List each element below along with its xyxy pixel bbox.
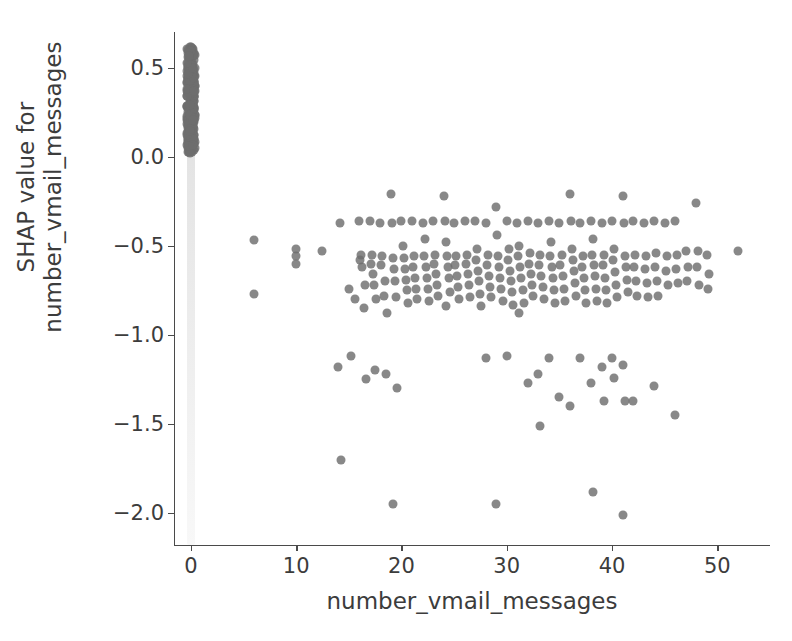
y-tick-mark — [168, 68, 174, 69]
scatter-point — [503, 256, 512, 265]
scatter-point — [391, 277, 400, 286]
scatter-point — [361, 375, 370, 384]
scatter-point — [652, 248, 661, 257]
scatter-point — [618, 191, 627, 200]
scatter-point — [462, 250, 471, 259]
scatter-point — [524, 259, 533, 268]
scatter-point — [557, 250, 566, 259]
scatter-point — [609, 256, 618, 265]
scatter-point — [513, 218, 522, 227]
scatter-point — [602, 298, 611, 307]
scatter-point — [581, 298, 590, 307]
scatter-point — [526, 270, 535, 279]
y-tick-label: −1.0 — [113, 323, 164, 347]
scatter-point — [346, 352, 355, 361]
scatter-point — [579, 273, 588, 282]
scatter-point — [661, 266, 670, 275]
y-tick-label: −1.5 — [113, 412, 164, 436]
scatter-point — [476, 289, 485, 298]
scatter-point — [618, 361, 627, 370]
scatter-point — [629, 216, 638, 225]
scatter-point — [465, 293, 474, 302]
scatter-point — [389, 500, 398, 509]
scatter-point — [608, 353, 617, 362]
scatter-point — [475, 277, 484, 286]
scatter-point — [558, 272, 567, 281]
scatter-point — [508, 288, 517, 297]
scatter-point — [671, 216, 680, 225]
x-tick-label: 0 — [184, 554, 197, 578]
scatter-point — [336, 218, 345, 227]
scatter-point — [355, 216, 364, 225]
scatter-point — [376, 218, 385, 227]
scatter-point — [576, 218, 585, 227]
y-axis-label-line-2: number_vmail_messages — [40, 0, 67, 397]
scatter-point — [632, 277, 641, 286]
scatter-point — [292, 259, 301, 268]
scatter-point — [424, 296, 433, 305]
scatter-point — [477, 302, 486, 311]
scatter-point — [463, 270, 472, 279]
scatter-point — [185, 51, 194, 60]
scatter-point — [445, 288, 454, 297]
scatter-point — [515, 309, 524, 318]
scatter-point — [474, 266, 483, 275]
scatter-point — [642, 279, 651, 288]
scatter-point — [534, 218, 543, 227]
scatter-point — [472, 256, 481, 265]
scatter-point — [641, 252, 650, 261]
scatter-point — [539, 295, 548, 304]
scatter-point — [450, 218, 459, 227]
scatter-point — [517, 273, 526, 282]
scatter-point — [505, 266, 514, 275]
x-tick-label: 50 — [704, 554, 731, 578]
x-tick-label: 20 — [388, 554, 415, 578]
scatter-point — [337, 455, 346, 464]
scatter-point — [586, 378, 595, 387]
scatter-point — [393, 384, 402, 393]
scatter-point — [576, 353, 585, 362]
scatter-point — [523, 216, 532, 225]
scatter-point — [612, 280, 621, 289]
scatter-point — [486, 293, 495, 302]
scatter-point — [536, 421, 545, 430]
scatter-point — [566, 216, 575, 225]
scatter-point — [622, 275, 631, 284]
scatter-point — [559, 284, 568, 293]
scatter-point — [381, 370, 390, 379]
scatter-point — [538, 282, 547, 291]
scatter-point — [692, 199, 701, 208]
scatter-point — [662, 252, 671, 261]
scatter-point — [473, 245, 482, 254]
scatter-point — [494, 252, 503, 261]
scatter-point — [683, 263, 692, 272]
scatter-point — [481, 218, 490, 227]
scatter-point — [389, 254, 398, 263]
x-tick-label: 10 — [283, 554, 310, 578]
scatter-point — [651, 263, 660, 272]
scatter-point — [434, 291, 443, 300]
scatter-point — [549, 273, 558, 282]
scatter-point — [514, 252, 523, 261]
scatter-point — [433, 280, 442, 289]
scatter-point — [440, 216, 449, 225]
scatter-point — [344, 284, 353, 293]
scatter-point — [189, 86, 198, 95]
scatter-point — [572, 291, 581, 300]
scatter-point — [496, 273, 505, 282]
scatter-point — [544, 353, 553, 362]
scatter-point — [650, 216, 659, 225]
scatter-point — [502, 352, 511, 361]
scatter-point — [460, 216, 469, 225]
scatter-point — [650, 382, 659, 391]
scatter-point — [365, 216, 374, 225]
scatter-point — [568, 245, 577, 254]
scatter-point — [418, 218, 427, 227]
scatter-point — [509, 300, 518, 309]
scatter-point — [518, 286, 527, 295]
scatter-point — [555, 393, 564, 402]
scatter-point — [633, 291, 642, 300]
scatter-point — [380, 277, 389, 286]
scatter-point — [534, 370, 543, 379]
scatter-point — [359, 304, 368, 313]
